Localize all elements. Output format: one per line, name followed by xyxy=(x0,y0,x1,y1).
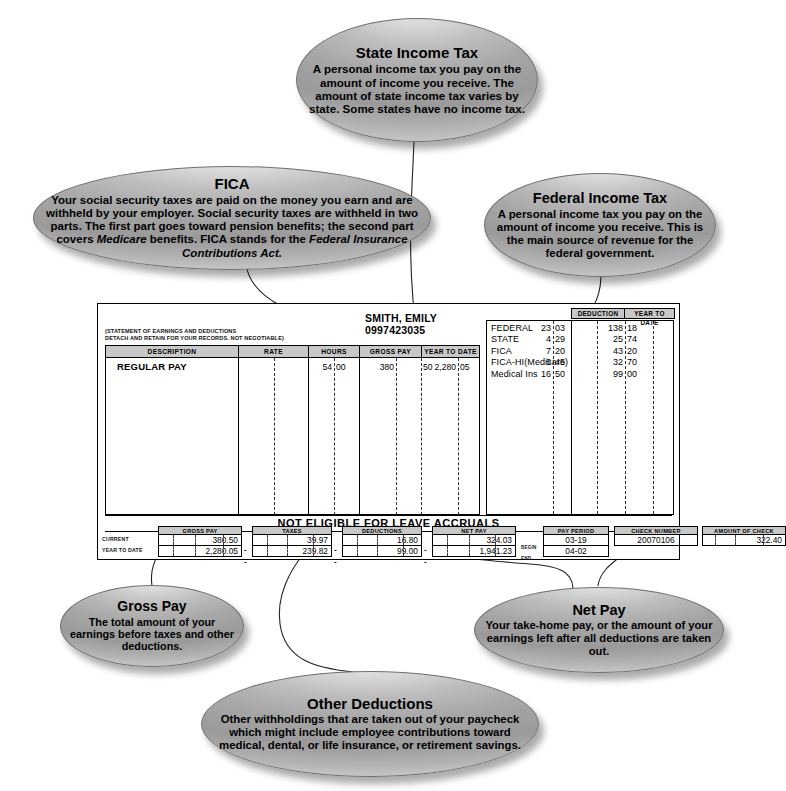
stub-divider-upper xyxy=(105,515,672,516)
summary-check-number-value: 20070106 xyxy=(614,535,698,546)
callout-federal-income-tax-body: A personal income tax you pay on the amo… xyxy=(491,208,709,260)
summary-check-number: CHECK NUMBER 20070106 xyxy=(614,526,698,557)
summary-pay-period-end: 04-02 xyxy=(543,546,609,557)
summary-separator-1: - xyxy=(244,545,247,554)
pay-stub: SMITH, EMILY 0997423035 (STATEMENT OF EA… xyxy=(97,303,680,560)
deductions-header-row: DEDUCTION YEAR TO DATE xyxy=(571,308,675,319)
callout-gross-pay-title: Gross Pay xyxy=(67,599,237,615)
deductions-col-deduction: DEDUCTION xyxy=(572,309,624,318)
earnings-table: DESCRIPTION RATE HOURS GROSS PAY YEAR TO… xyxy=(105,345,480,515)
summary-gross-pay: GROSS PAY 380.50 2,280.05 xyxy=(158,526,242,557)
summary-taxes-header: TAXES xyxy=(252,526,332,535)
summary-pay-period-header: PAY PERIOD xyxy=(543,526,609,535)
summary-row-labels: CURRENT YEAR TO DATE xyxy=(102,536,143,553)
deduction-amount-cents: 20 xyxy=(555,346,573,357)
callout-fica-title: FICA xyxy=(40,176,424,193)
deduction-ytd-dollars: 99 xyxy=(595,369,623,380)
summary-net-pay-header: NET PAY xyxy=(432,526,516,535)
earnings-body: REGULAR PAY 54 00 380 50 2,280 05 xyxy=(106,358,479,515)
deduction-ytd-cents: 00 xyxy=(627,369,645,380)
earnings-ytd-cents: 05 xyxy=(460,362,480,372)
summary-deductions: DEDUCTIONS 16.80 99.00 xyxy=(342,526,422,557)
label-end: END xyxy=(521,556,537,561)
deduction-amount-cents: 45 xyxy=(555,357,573,368)
earnings-col-rate: RATE xyxy=(238,346,308,357)
earnings-gross-dollars: 380 xyxy=(364,362,394,372)
summary-label-ytd: YEAR TO DATE xyxy=(102,547,143,553)
deduction-ytd-cents: 20 xyxy=(627,346,645,357)
summary-separator-1b: - xyxy=(244,557,247,566)
callout-fica: FICA Your social security taxes are paid… xyxy=(33,166,431,270)
earnings-header-row: DESCRIPTION RATE HOURS GROSS PAY YEAR TO… xyxy=(106,346,479,358)
deduction-amount-cents: 29 xyxy=(555,334,573,345)
callout-federal-income-tax: Federal Income Tax A personal income tax… xyxy=(484,173,716,277)
callout-fica-body: Your social security taxes are paid on t… xyxy=(40,194,424,260)
callout-state-income-tax-body: A personal income tax you pay on the amo… xyxy=(303,62,531,115)
deduction-amount-cents: 03 xyxy=(555,323,573,334)
earnings-col-gross-pay: GROSS PAY xyxy=(359,346,421,357)
callout-fica-medicare: Medicare xyxy=(97,233,147,245)
callout-state-income-tax: State Income Tax A personal income tax y… xyxy=(296,18,538,142)
callout-net-pay-title: Net Pay xyxy=(481,602,717,618)
earnings-col-description: DESCRIPTION xyxy=(106,346,238,357)
employee-name: SMITH, EMILY xyxy=(365,312,437,324)
callout-state-income-tax-title: State Income Tax xyxy=(303,45,531,62)
deductions-table: DEDUCTION YEAR TO DATE FEDERAL STATE FIC… xyxy=(486,320,674,515)
deduction-amount-dollars: 4 xyxy=(523,334,551,345)
callout-fica-body-2: benefits. FICA stands for the xyxy=(147,233,310,245)
earnings-hours-dollars: 54 xyxy=(306,362,332,372)
callout-gross-pay-body: The total amount of your earnings before… xyxy=(67,616,237,653)
summary-deductions-ytd: 99.00 xyxy=(342,546,422,557)
summary-section: CURRENT YEAR TO DATE GROSS PAY 380.50 2,… xyxy=(98,535,679,561)
summary-taxes-current: 39.97 xyxy=(252,535,332,546)
summary-pay-period: PAY PERIOD 03-19 04-02 xyxy=(543,526,609,557)
deduction-ytd-dollars: 138 xyxy=(595,323,623,334)
summary-deductions-current: 16.80 xyxy=(342,535,422,546)
callout-net-pay-body: Your take-home pay, or the amount of you… xyxy=(481,619,717,657)
summary-pay-period-begin: 03-19 xyxy=(543,535,609,546)
callout-other-deductions: Other Deductions Other withholdings that… xyxy=(201,671,539,777)
pay-period-row-labels: BEGIN END xyxy=(521,545,537,561)
deduction-ytd-cents: 70 xyxy=(627,357,645,368)
deduction-ytd-cents: 74 xyxy=(627,334,645,345)
employee-id: 0997423035 xyxy=(365,324,425,336)
summary-separator-3b: - xyxy=(424,557,427,566)
summary-net-pay: NET PAY 324.03 1,941.23 xyxy=(432,526,516,557)
summary-net-pay-ytd: 1,941.23 xyxy=(432,546,516,557)
summary-amount-of-check-value: 322.40 xyxy=(702,535,786,546)
earnings-col-hours: HOURS xyxy=(308,346,359,357)
deduction-ytd-dollars: 43 xyxy=(595,346,623,357)
legal-line-2: DETACH AND RETAIN FOR YOUR RECORDS. NOT … xyxy=(105,335,284,341)
callout-other-deductions-body: Other withholdings that are taken out of… xyxy=(208,713,532,752)
callout-gross-pay: Gross Pay The total amount of your earni… xyxy=(60,585,244,667)
summary-gross-pay-header: GROSS PAY xyxy=(158,526,242,535)
summary-check-number-header: CHECK NUMBER xyxy=(614,526,698,535)
legal-notice: (STATEMENT OF EARNINGS AND DEDUCTIONS DE… xyxy=(105,328,284,342)
summary-gross-pay-current: 380.50 xyxy=(158,535,242,546)
earnings-row-description: REGULAR PAY xyxy=(117,361,187,372)
employee-header: SMITH, EMILY 0997423035 xyxy=(365,312,437,337)
summary-separator-2: - xyxy=(334,545,337,554)
summary-net-pay-current: 324.03 xyxy=(432,535,516,546)
deduction-ytd-dollars: 25 xyxy=(595,334,623,345)
deduction-amount-dollars: 5 xyxy=(523,357,551,368)
callout-federal-income-tax-title: Federal Income Tax xyxy=(491,190,709,206)
earnings-col-year-to-date: YEAR TO DATE xyxy=(421,346,479,357)
summary-taxes: TAXES 39.97 239.82 xyxy=(252,526,332,557)
callout-net-pay: Net Pay Your take-home pay, or the amoun… xyxy=(474,587,724,673)
summary-taxes-ytd: 239.82 xyxy=(252,546,332,557)
label-begin: BEGIN xyxy=(521,545,537,550)
earnings-hours-cents: 00 xyxy=(336,362,356,372)
deductions-col-year-to-date: YEAR TO DATE xyxy=(624,309,674,318)
summary-amount-of-check: AMOUNT OF CHECK 322.40 xyxy=(702,526,786,557)
callout-other-deductions-title: Other Deductions xyxy=(208,696,532,713)
summary-gross-pay-ytd: 2,280.05 xyxy=(158,546,242,557)
summary-deductions-header: DEDUCTIONS xyxy=(342,526,422,535)
deduction-amount-dollars: 23 xyxy=(523,323,551,334)
legal-line-1: (STATEMENT OF EARNINGS AND DEDUCTIONS xyxy=(105,328,236,334)
summary-amount-of-check-header: AMOUNT OF CHECK xyxy=(702,526,786,535)
summary-label-current: CURRENT xyxy=(102,536,143,542)
earnings-ytd-dollars: 2,280 xyxy=(394,362,456,372)
summary-separator-2b: - xyxy=(334,557,337,566)
